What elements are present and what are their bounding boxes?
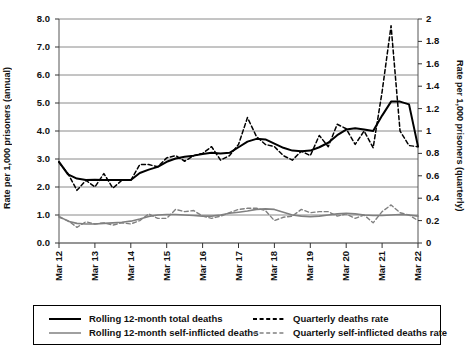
x-axis-tick-label: Mar 18 xyxy=(268,251,279,281)
x-axis-tick-label: Mar 12 xyxy=(53,251,64,281)
chart-legend: Rolling 12-month total deathsRolling 12-… xyxy=(33,305,441,345)
chart-figure: Rate per 1,000 prisoners (annual) Rate p… xyxy=(0,0,474,356)
legend-item: Quarterly self-inflicted deaths rate xyxy=(252,327,447,338)
x-axis-tick-label: Mar 20 xyxy=(340,251,351,281)
y-axis-left-tick-label: 6.0 xyxy=(20,69,50,80)
y-axis-left-tick-label: 8.0 xyxy=(20,13,50,24)
x-axis-tick-label: Mar 21 xyxy=(376,251,387,281)
y-axis-right-tick-label: 0.6 xyxy=(426,170,456,181)
legend-swatch-dashed xyxy=(252,328,286,338)
y-axis-left-tick-label: 2.0 xyxy=(20,181,50,192)
y-axis-right-tick-label: 1.2 xyxy=(426,103,456,114)
y-axis-right-tick-label: 0 xyxy=(426,237,456,248)
x-axis-tick-label: Mar 15 xyxy=(161,251,172,281)
legend-label: Quarterly deaths rate xyxy=(293,313,389,324)
y-axis-left-tick-label: 5.0 xyxy=(20,97,50,108)
y-axis-left-tick-label: 1.0 xyxy=(20,209,50,220)
y-axis-right-tick-label: 0.2 xyxy=(426,215,456,226)
series-line-0 xyxy=(59,102,418,180)
legend-label: Quarterly self-inflicted deaths rate xyxy=(293,327,447,338)
legend-label: Rolling 12-month self-inflicted deaths xyxy=(89,327,258,338)
legend-swatch-solid xyxy=(48,314,82,324)
legend-swatch-dashed xyxy=(252,314,286,324)
y-axis-right-tick-label: 1.8 xyxy=(426,35,456,46)
series-line-2 xyxy=(59,26,418,191)
x-axis-tick-label: Mar 22 xyxy=(412,251,423,281)
legend-item: Rolling 12-month self-inflicted deaths xyxy=(48,327,258,338)
x-axis-tick-label: Mar 17 xyxy=(233,251,244,281)
y-axis-left-tick-label: 0.0 xyxy=(20,237,50,248)
plot-area xyxy=(0,0,474,356)
series-line-1 xyxy=(59,209,418,224)
legend-item: Quarterly deaths rate xyxy=(252,313,389,324)
series-line-3 xyxy=(59,205,418,227)
y-axis-right-tick-label: 0.4 xyxy=(426,192,456,203)
x-axis-tick-label: Mar 13 xyxy=(89,251,100,281)
y-axis-left-tick-label: 7.0 xyxy=(20,41,50,52)
legend-item: Rolling 12-month total deaths xyxy=(48,313,223,324)
legend-label: Rolling 12-month total deaths xyxy=(89,313,223,324)
y-axis-right-tick-label: 0.8 xyxy=(426,147,456,158)
x-axis-tick-label: Mar 16 xyxy=(197,251,208,281)
x-axis-tick-label: Mar 14 xyxy=(125,251,136,281)
y-axis-right-tick-label: 1.6 xyxy=(426,58,456,69)
y-axis-left-tick-label: 3.0 xyxy=(20,153,50,164)
y-axis-left-tick-label: 4.0 xyxy=(20,125,50,136)
x-axis-tick-label: Mar 19 xyxy=(304,251,315,281)
y-axis-right-tick-label: 1 xyxy=(426,125,456,136)
y-axis-right-tick-label: 2 xyxy=(426,13,456,24)
legend-swatch-solid xyxy=(48,328,82,338)
y-axis-right-tick-label: 1.4 xyxy=(426,80,456,91)
